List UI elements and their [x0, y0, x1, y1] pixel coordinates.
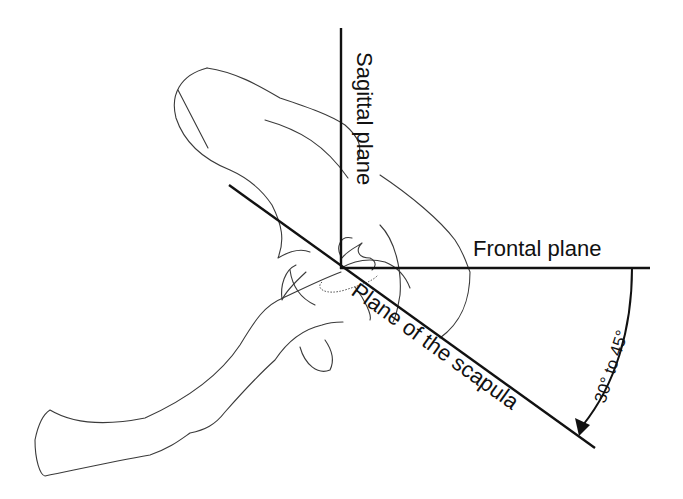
shoulder-planes-diagram: Sagittal plane Frontal plane Plane of th… [0, 0, 683, 499]
clavicle-outline [35, 272, 343, 476]
scapular-plane-label: Plane of the scapula [347, 278, 524, 415]
acromion-outline [282, 265, 333, 371]
arrowhead-icon [575, 418, 590, 436]
angle-label: 30° to 45° [591, 328, 632, 405]
frontal-plane-label: Frontal plane [473, 236, 601, 261]
sagittal-plane-label: Sagittal plane [352, 52, 377, 185]
scapula-outline [174, 68, 470, 338]
